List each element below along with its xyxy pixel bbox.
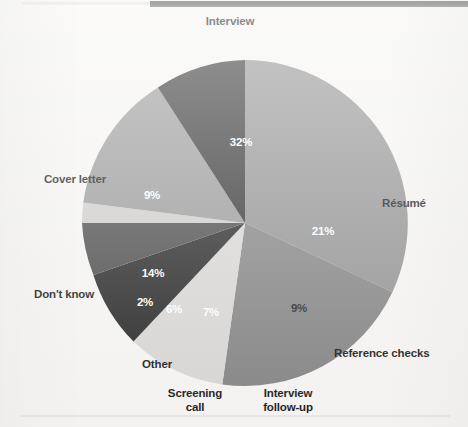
pie-label-dont-know: Don't know: [8, 287, 94, 301]
pie-label-interview-followup: Interview follow-up: [238, 386, 338, 414]
pie-value-interview-followup: 7%: [203, 306, 219, 318]
pie-label-screening-call: Screening call: [152, 386, 238, 414]
header-rule-left: [22, 2, 150, 5]
header-rule: [150, 1, 468, 7]
footer-rule: [20, 415, 450, 417]
pie-value-interview: 32%: [230, 136, 252, 148]
pie-label-cover-letter: Cover letter: [14, 172, 106, 186]
pie-value-dont-know: 14%: [142, 267, 164, 279]
pie-label-resume: Résumé: [382, 196, 462, 210]
pie-chart: 32% 21% 9% 7% 6% 2% 14% 9%: [80, 58, 410, 388]
pie-value-resume: 21%: [312, 225, 334, 237]
pie-value-screening-call: 6%: [166, 303, 182, 315]
chart-page: 32% 21% 9% 7% 6% 2% 14% 9% Interview Rés…: [0, 0, 468, 427]
pie-value-other: 2%: [137, 296, 153, 308]
pie-label-interview: Interview: [160, 14, 300, 28]
pie-chart-svg: 32% 21% 9% 7% 6% 2% 14% 9%: [80, 58, 410, 388]
pie-value-cover-letter: 9%: [144, 189, 160, 201]
pie-value-reference-checks: 9%: [291, 302, 307, 314]
pie-label-other: Other: [132, 357, 182, 371]
pie-label-reference-checks: Reference checks: [334, 346, 464, 360]
